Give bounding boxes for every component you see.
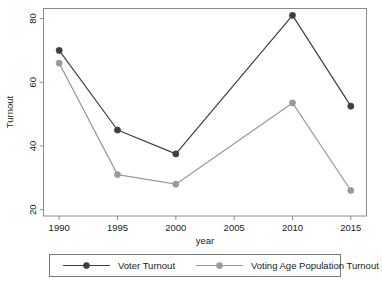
data-point	[114, 172, 120, 178]
chart-figure: 20406080 199019952000200520102015 Turnou…	[0, 0, 382, 284]
legend-label: Voting Age Population Turnout	[251, 260, 379, 271]
legend-label: Voter Turnout	[118, 260, 175, 271]
x-axis-title: year	[196, 235, 214, 246]
data-point	[348, 187, 354, 193]
x-tick-label: 1995	[107, 222, 128, 233]
y-tick-label: 60	[28, 77, 39, 88]
y-tick-label: 80	[28, 13, 39, 24]
data-point	[173, 181, 179, 187]
y-axis-title: Turnout	[4, 95, 15, 128]
chart-legend: Voter TurnoutVoting Age Population Turno…	[50, 255, 380, 277]
data-point	[56, 60, 62, 66]
turnout-line-chart: 20406080 199019952000200520102015 Turnou…	[0, 0, 382, 284]
x-tick-label: 2005	[224, 222, 245, 233]
x-tick-label: 2000	[165, 222, 186, 233]
x-tick-label: 2015	[340, 222, 361, 233]
chart-background	[0, 0, 382, 284]
y-tick-label: 20	[28, 204, 39, 215]
x-tick-label: 1990	[49, 222, 70, 233]
x-tick-label: 2010	[282, 222, 303, 233]
data-point	[114, 127, 120, 133]
data-point	[289, 100, 295, 106]
data-point	[289, 12, 295, 18]
legend-marker	[83, 262, 89, 268]
data-point	[348, 103, 354, 109]
data-point	[56, 47, 62, 53]
y-tick-label: 40	[28, 141, 39, 152]
data-point	[173, 151, 179, 157]
legend-marker	[216, 262, 222, 268]
